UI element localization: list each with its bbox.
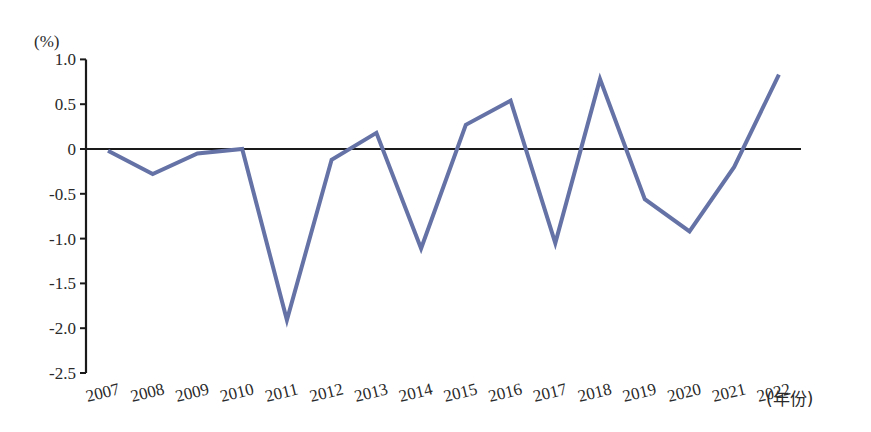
x-tick-label: 2021 — [710, 379, 748, 406]
y-tick-label: -0.5 — [49, 185, 76, 204]
x-axis-tick-labels: 2007200820092010201120122013201420152016… — [84, 379, 793, 406]
x-tick-label: 2009 — [173, 379, 211, 406]
x-tick-label: 2013 — [352, 379, 390, 406]
x-tick-label: 2014 — [397, 379, 435, 406]
x-tick-label: 2016 — [486, 379, 524, 406]
y-tick-label: -1.5 — [49, 274, 76, 293]
y-tick-label: 0.5 — [55, 95, 76, 114]
x-axis-unit-label: (年份) — [766, 389, 813, 409]
series-line-value — [108, 75, 779, 321]
x-tick-label: 2017 — [531, 379, 569, 406]
x-tick-label: 2019 — [621, 379, 659, 406]
x-tick-label: 2015 — [442, 379, 480, 406]
y-tick-label: 1.0 — [55, 50, 76, 69]
x-tick-label: 2010 — [218, 379, 256, 406]
x-tick-label: 2018 — [576, 379, 614, 406]
line-chart: 1.00.50-0.5-1.0-1.5-2.0-2.5 (%) 20072008… — [0, 0, 871, 432]
y-axis-ticks: 1.00.50-0.5-1.0-1.5-2.0-2.5 — [49, 50, 86, 383]
y-axis-unit-label: (%) — [34, 32, 59, 51]
data-series-line — [108, 75, 779, 321]
x-tick-label: 2020 — [665, 379, 703, 406]
x-tick-label: 2008 — [129, 379, 167, 406]
x-tick-label: 2007 — [84, 379, 122, 406]
x-tick-label: 2011 — [263, 379, 300, 406]
y-tick-label: -1.0 — [49, 230, 76, 249]
y-tick-label: -2.5 — [49, 364, 76, 383]
y-tick-label: -2.0 — [49, 319, 76, 338]
y-tick-label: 0 — [68, 140, 77, 159]
x-tick-label: 2012 — [308, 379, 346, 406]
